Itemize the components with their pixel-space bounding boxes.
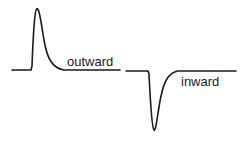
inward-label: inward <box>181 74 219 89</box>
outward-trace: outward <box>12 9 120 70</box>
current-traces-diagram: outward inward <box>0 0 245 141</box>
inward-trace: inward <box>126 71 236 130</box>
outward-label: outward <box>67 54 113 69</box>
